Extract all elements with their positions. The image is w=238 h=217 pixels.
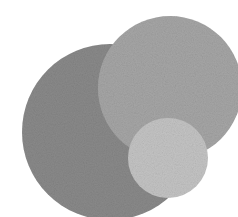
small-circle bbox=[128, 118, 208, 198]
circles-illustration bbox=[0, 0, 238, 217]
